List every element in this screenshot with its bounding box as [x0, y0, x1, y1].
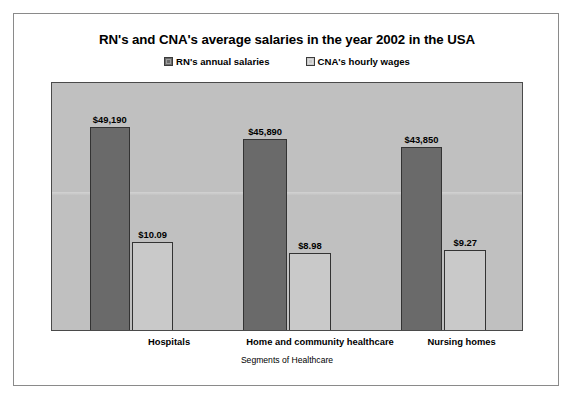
bar-cna-1: [289, 253, 331, 330]
plot-area: $49,190$10.09$45,890$8.98$43,850$9.27: [51, 82, 523, 331]
bar-value-label: $10.09: [138, 229, 167, 240]
bar-value-label: $9.27: [453, 237, 476, 248]
x-axis-title: Segments of Healthcare: [51, 355, 523, 365]
bars-layer: $49,190$10.09$45,890$8.98$43,850$9.27: [52, 83, 522, 330]
bar-cna-0: [132, 242, 174, 330]
legend-swatch-rn-icon: [164, 57, 173, 66]
bar-value-label: $45,890: [248, 126, 282, 137]
bar-value-label: $8.98: [298, 240, 321, 251]
chart-frame: RN's and CNA's average salaries in the y…: [13, 13, 559, 386]
legend-label-rn: RN's annual salaries: [176, 56, 269, 67]
bar-cna-2: [444, 250, 486, 330]
legend-item-cna: CNA's hourly wages: [306, 56, 410, 67]
legend-label-cna: CNA's hourly wages: [318, 56, 410, 67]
bar-value-label: $43,850: [404, 134, 438, 145]
bar-rn-1: [243, 139, 287, 330]
category-label-1: Home and community healthcare: [246, 336, 393, 347]
chart-title: RN's and CNA's average salaries in the y…: [14, 32, 560, 47]
category-axis-labels: HospitalsHome and community healthcareNu…: [51, 336, 523, 352]
category-label-2: Nursing homes: [428, 336, 496, 347]
chart-legend: RN's annual salaries CNA's hourly wages: [14, 56, 560, 67]
category-label-0: Hospitals: [148, 336, 190, 347]
legend-swatch-cna-icon: [306, 57, 315, 66]
legend-item-rn: RN's annual salaries: [164, 56, 269, 67]
bar-rn-2: [401, 147, 443, 330]
bar-rn-0: [90, 127, 130, 330]
bar-value-label: $49,190: [93, 114, 127, 125]
